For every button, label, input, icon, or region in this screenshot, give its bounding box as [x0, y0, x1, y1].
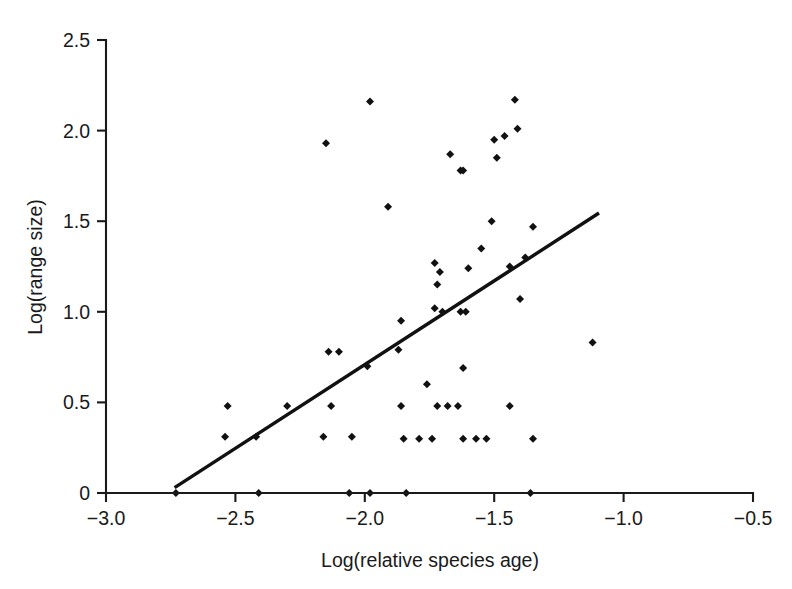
- data-point: [394, 346, 402, 354]
- y-tick-label: 1.0: [63, 301, 90, 323]
- data-point: [436, 268, 444, 276]
- data-point: [516, 295, 524, 303]
- data-point: [462, 308, 470, 316]
- regression-line-segment: [175, 213, 599, 488]
- data-point: [501, 132, 509, 140]
- plot-canvas: −3.0−2.5−2.0−1.5−1.0−0.5 00.51.01.52.02.…: [0, 0, 792, 589]
- data-point: [325, 348, 333, 356]
- data-point: [444, 402, 452, 410]
- x-tick-label: −2.5: [216, 507, 255, 529]
- data-point: [459, 435, 467, 443]
- x-axis-title: Log(relative species age): [321, 549, 539, 571]
- data-point: [511, 96, 519, 104]
- data-point: [488, 217, 496, 225]
- y-tick-label: 0: [79, 482, 90, 504]
- data-point: [490, 136, 498, 144]
- x-tick-label: −2.0: [346, 507, 385, 529]
- data-point: [464, 264, 472, 272]
- data-point: [446, 150, 454, 158]
- data-point: [454, 402, 462, 410]
- y-axis-title: Log(range size): [24, 199, 46, 335]
- data-point: [431, 259, 439, 267]
- data-point: [433, 402, 441, 410]
- data-point: [400, 435, 408, 443]
- data-point: [493, 154, 501, 162]
- axes-group: [106, 40, 753, 493]
- data-point: [224, 402, 232, 410]
- data-point: [366, 98, 374, 106]
- data-point: [529, 223, 537, 231]
- data-point: [477, 244, 485, 252]
- data-point: [319, 433, 327, 441]
- data-point: [433, 281, 441, 289]
- data-point: [397, 402, 405, 410]
- data-point: [428, 435, 436, 443]
- data-point: [459, 364, 467, 372]
- data-point: [327, 402, 335, 410]
- data-point: [322, 139, 330, 147]
- data-point: [529, 435, 537, 443]
- data-points-group: [172, 96, 597, 497]
- x-tick-label: −3.0: [87, 507, 126, 529]
- scatter-plot-figure: −3.0−2.5−2.0−1.5−1.0−0.5 00.51.01.52.02.…: [0, 0, 792, 589]
- y-tick-label: 0.5: [63, 391, 90, 413]
- data-point: [221, 433, 229, 441]
- y-tick-label: 1.5: [63, 210, 90, 232]
- data-point: [513, 125, 521, 133]
- data-point: [415, 435, 423, 443]
- x-tick-label: −1.5: [475, 507, 514, 529]
- data-point: [589, 339, 597, 347]
- y-axis-ticks: 00.51.01.52.02.5: [63, 29, 106, 504]
- data-point: [348, 433, 356, 441]
- data-point: [472, 435, 480, 443]
- data-point: [423, 380, 431, 388]
- data-point: [335, 348, 343, 356]
- data-point: [431, 304, 439, 312]
- y-tick-label: 2.5: [63, 29, 90, 51]
- data-point: [384, 203, 392, 211]
- x-tick-label: −0.5: [734, 507, 773, 529]
- data-point: [397, 317, 405, 325]
- x-tick-label: −1.0: [604, 507, 643, 529]
- data-point: [283, 402, 291, 410]
- data-point: [506, 402, 514, 410]
- data-point: [482, 435, 490, 443]
- regression-line: [175, 213, 599, 488]
- y-tick-label: 2.0: [63, 120, 90, 142]
- x-axis-ticks: −3.0−2.5−2.0−1.5−1.0−0.5: [87, 493, 773, 529]
